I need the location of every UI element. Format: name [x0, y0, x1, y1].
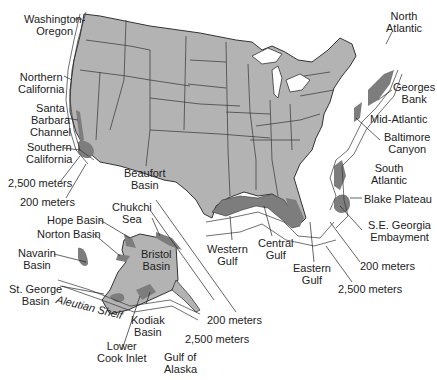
label-alaska-200m: 200 meters: [207, 314, 262, 326]
label-blake-plateau: Blake Plateau: [364, 193, 432, 205]
label-western-gulf: WesternGulf: [207, 243, 248, 267]
label-bristol-basin: BristolBasin: [141, 248, 172, 272]
label-georges-bank: GeorgesBank: [393, 81, 435, 105]
label-gulf-of-alaska: Gulf ofAlaska: [164, 351, 197, 375]
label-west-200m: 200 meters: [20, 196, 75, 208]
label-central-gulf: CentralGulf: [258, 237, 293, 261]
label-eastern-gulf: EasternGulf: [293, 262, 331, 286]
baltimore-canyon-shading: [354, 102, 362, 122]
label-hope-basin: Hope Basin: [47, 214, 104, 226]
label-northern-california: NorthernCalifornia: [18, 71, 64, 95]
label-baltimore-canyon: BaltimoreCanyon: [384, 131, 430, 155]
label-lower-cook-inlet: LowerCook Inlet: [97, 340, 147, 364]
label-north-atlantic: NorthAtlantic: [386, 10, 422, 34]
label-west-2500m: 2,500 meters: [8, 177, 72, 189]
label-east-200m: 200 meters: [360, 260, 415, 272]
label-norton-basin: Norton Basin: [37, 228, 101, 240]
label-washington-oregon: Washington-Oregon: [24, 13, 85, 37]
blake-plateau-shading: [334, 194, 350, 213]
label-mid-atlantic: Mid-Atlantic: [370, 113, 427, 125]
label-beaufort-basin: BeaufortBasin: [124, 167, 166, 191]
label-se-georgia-embayment: S.E. GeorgiaEmbayment: [368, 219, 431, 243]
label-santa-barbara-channel: SantaBarbaraChannel: [30, 102, 71, 138]
label-southern-california: SouthernCalifornia: [26, 141, 72, 165]
label-kodiak-basin: KodiakBasin: [131, 314, 165, 338]
label-chukchi-sea: ChukchiSea: [112, 201, 152, 225]
label-alaska-2500m: 2,500 meters: [185, 333, 249, 345]
navarin-basin-shading: [78, 248, 88, 266]
south-atlantic-shading: [334, 160, 346, 190]
alaska-land: [102, 234, 178, 314]
label-navarin-basin: NavarinBasin: [18, 247, 56, 271]
label-east-2500m: 2,500 meters: [338, 283, 402, 295]
label-south-atlantic: SouthAtlantic: [371, 162, 407, 186]
